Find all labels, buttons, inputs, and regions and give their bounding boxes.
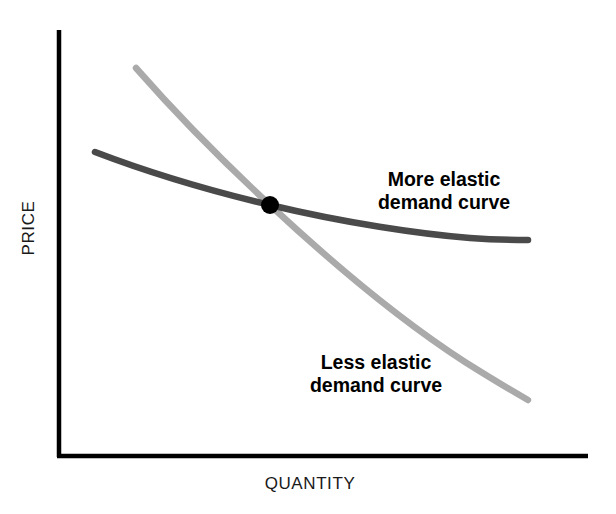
more-elastic-curve-label: More elastic demand curve [352, 168, 536, 214]
elasticity-figure: PRICE QUANTITY More elastic demand curve… [0, 0, 616, 514]
intersection-point-marker [261, 196, 279, 214]
more-elastic-label-line-2: demand curve [352, 191, 536, 214]
less-elastic-label-line-2: demand curve [284, 374, 468, 397]
y-axis-label: PRICE [19, 199, 39, 257]
more-elastic-label-line-1: More elastic [352, 168, 536, 191]
less-elastic-curve-label: Less elastic demand curve [284, 351, 468, 397]
x-axis-label: QUANTITY [220, 474, 400, 494]
demand-curve-plot [0, 0, 616, 514]
less-elastic-label-line-1: Less elastic [284, 351, 468, 374]
plot-background [0, 0, 616, 514]
